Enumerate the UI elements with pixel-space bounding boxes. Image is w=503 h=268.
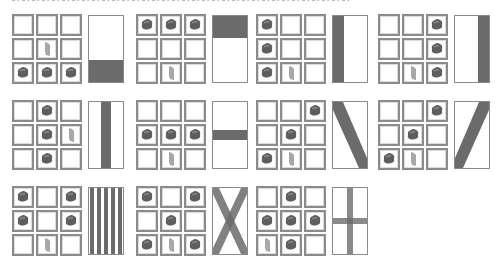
crafting-slot (304, 38, 326, 60)
crafting-slot (160, 38, 182, 60)
dye-icon (430, 17, 444, 31)
crafting-slot (280, 62, 302, 84)
crafting-slot (280, 38, 302, 60)
crafting-slot (280, 186, 302, 208)
crafting-slot (378, 100, 400, 122)
crafting-slot (12, 100, 34, 122)
dye-icon (164, 17, 178, 31)
recipe-paly (12, 186, 130, 258)
crafting-slot (60, 148, 82, 170)
crafting-grid (136, 14, 206, 84)
crafting-slot (378, 148, 400, 170)
crafting-slot (378, 14, 400, 36)
dye-icon (430, 41, 444, 55)
crafting-slot (184, 38, 206, 60)
crafting-slot (426, 148, 448, 170)
crafting-slot (60, 14, 82, 36)
crafting-slot (378, 62, 400, 84)
banner-result-right-third (454, 15, 490, 83)
crafting-slot (256, 186, 278, 208)
crafting-slot (280, 148, 302, 170)
crafting-slot (184, 210, 206, 232)
crafting-slot (12, 186, 34, 208)
dye-icon (16, 65, 30, 79)
crafting-slot (256, 14, 278, 36)
banner-item-icon (289, 66, 294, 80)
crafting-slot (256, 100, 278, 122)
crafting-slot (304, 186, 326, 208)
crafting-grid (378, 14, 448, 84)
crafting-slot (402, 62, 424, 84)
crafting-slot (304, 210, 326, 232)
dye-icon (40, 151, 54, 165)
crafting-slot (12, 148, 34, 170)
banner-item-icon (169, 238, 174, 252)
crafting-slot (426, 14, 448, 36)
crafting-slot (136, 148, 158, 170)
crafting-grid (12, 100, 82, 170)
banner-item-icon (169, 152, 174, 166)
crafting-slot (12, 14, 34, 36)
crafting-slot (402, 38, 424, 60)
crafting-slot (160, 148, 182, 170)
crafting-slot (160, 124, 182, 146)
crafting-slot (304, 148, 326, 170)
crafting-slot (12, 38, 34, 60)
crafting-slot (256, 124, 278, 146)
banner-item-icon (45, 238, 50, 252)
crafting-slot (426, 38, 448, 60)
crafting-slot (36, 14, 58, 36)
dye-icon (260, 151, 274, 165)
dye-icon (64, 189, 78, 203)
banner-item-icon (69, 128, 74, 142)
crafting-slot (426, 62, 448, 84)
crafting-slot (402, 14, 424, 36)
banner-item-icon (265, 238, 270, 252)
banner-result-cross-diagonal (212, 187, 248, 255)
recipe-cross (256, 186, 374, 258)
crafting-slot (378, 38, 400, 60)
dye-icon (260, 41, 274, 55)
dye-icon (140, 17, 154, 31)
recipe-base (12, 14, 130, 86)
dye-icon (140, 237, 154, 251)
crafting-slot (36, 124, 58, 146)
recipe-pale-dexter (256, 14, 374, 86)
crafting-slot (378, 124, 400, 146)
banner-result-cross-straight (332, 187, 368, 255)
recipe-fess (136, 100, 254, 172)
dye-icon (260, 65, 274, 79)
crafting-slot (304, 124, 326, 146)
dye-icon (188, 17, 202, 31)
banner-result-diagonal-up (454, 101, 490, 169)
crafting-slot (426, 100, 448, 122)
dye-icon (260, 17, 274, 31)
dye-icon (308, 103, 322, 117)
crafting-slot (256, 62, 278, 84)
crafting-slot (136, 210, 158, 232)
crafting-grid (256, 14, 326, 84)
crafting-slot (36, 38, 58, 60)
crafting-slot (304, 100, 326, 122)
dye-icon (16, 189, 30, 203)
recipe-pale (12, 100, 130, 172)
dye-icon (140, 189, 154, 203)
banner-result-horizontal-center (212, 101, 248, 169)
crafting-slot (280, 210, 302, 232)
dye-icon (406, 127, 420, 141)
dye-icon (260, 213, 274, 227)
crafting-slot (60, 62, 82, 84)
crafting-slot (12, 62, 34, 84)
crafting-slot (160, 62, 182, 84)
crafting-slot (60, 124, 82, 146)
recipe-saltire (136, 186, 254, 258)
crafting-slot (402, 124, 424, 146)
banner-result-vertical-stripes (88, 187, 124, 255)
banner-item-icon (411, 66, 416, 80)
clipped-caption (12, 0, 352, 2)
crafting-slot (12, 234, 34, 256)
crafting-slot (36, 148, 58, 170)
crafting-slot (280, 124, 302, 146)
crafting-grid (378, 100, 448, 170)
dye-icon (284, 213, 298, 227)
